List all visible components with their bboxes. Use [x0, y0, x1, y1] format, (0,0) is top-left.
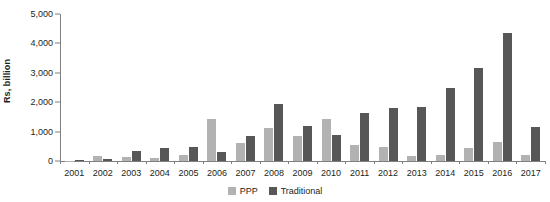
- bar-group-2004: [146, 14, 175, 161]
- x-axis-tick-mark: [431, 161, 432, 164]
- bar-group-2011: [345, 14, 374, 161]
- bar-ppp-2011: [350, 145, 359, 161]
- bar-group-2014: [431, 14, 460, 161]
- legend-item-ppp: PPP: [228, 186, 258, 196]
- y-axis-tick-label: 2,000: [30, 97, 53, 107]
- bar-traditional-2010: [332, 135, 341, 161]
- bar-group-2007: [231, 14, 260, 161]
- x-axis-tick-mark: [89, 161, 90, 164]
- x-axis-label-2017: 2017: [517, 166, 546, 180]
- legend-swatch-ppp: [228, 187, 236, 195]
- bar-traditional-2007: [246, 136, 255, 161]
- bar-group-2017: [517, 14, 546, 161]
- x-axis-labels: 2001200220032004200520062007200820092010…: [60, 166, 545, 180]
- x-axis-label-2012: 2012: [374, 166, 403, 180]
- x-axis-label-2004: 2004: [146, 166, 175, 180]
- y-axis-tick-label: 4,000: [30, 38, 53, 48]
- bar-group-2015: [459, 14, 488, 161]
- x-axis-label-2009: 2009: [288, 166, 317, 180]
- bar-group-2001: [60, 14, 89, 161]
- bar-traditional-2008: [274, 104, 283, 161]
- y-axis-tick-label: 0: [48, 156, 53, 166]
- x-axis-tick-mark: [345, 161, 346, 164]
- bar-traditional-2011: [360, 113, 369, 161]
- x-axis-tick-mark: [545, 161, 546, 164]
- bar-ppp-2006: [207, 119, 216, 161]
- x-axis-tick-mark: [117, 161, 118, 164]
- bar-series-container: [60, 14, 545, 161]
- bar-traditional-2017: [531, 127, 540, 161]
- x-axis-label-2003: 2003: [117, 166, 146, 180]
- bar-traditional-2004: [160, 148, 169, 161]
- x-axis-label-2015: 2015: [459, 166, 488, 180]
- legend-item-traditional: Traditional: [269, 186, 323, 196]
- bar-traditional-2012: [389, 108, 398, 161]
- legend-swatch-traditional: [269, 187, 277, 195]
- bar-traditional-2014: [446, 88, 455, 161]
- x-axis-tick-mark: [374, 161, 375, 164]
- bar-traditional-2005: [189, 147, 198, 161]
- x-axis-label-2008: 2008: [260, 166, 289, 180]
- bar-group-2016: [488, 14, 517, 161]
- bar-ppp-2009: [293, 136, 302, 161]
- x-axis-label-2013: 2013: [402, 166, 431, 180]
- x-axis-tick-mark: [317, 161, 318, 164]
- bar-group-2002: [89, 14, 118, 161]
- bar-chart: Rs, billion 5,0004,0003,0002,0001,0000 2…: [0, 0, 550, 202]
- bar-group-2005: [174, 14, 203, 161]
- bar-group-2010: [317, 14, 346, 161]
- bar-group-2006: [203, 14, 232, 161]
- x-axis-tick-mark: [146, 161, 147, 164]
- bar-group-2009: [288, 14, 317, 161]
- bar-ppp-2008: [264, 128, 273, 161]
- bar-ppp-2012: [379, 147, 388, 161]
- y-axis-title-label: Rs, billion: [2, 58, 12, 102]
- x-axis-label-2016: 2016: [488, 166, 517, 180]
- x-axis-tick-mark: [60, 161, 61, 164]
- x-axis-tick-mark: [516, 161, 517, 164]
- x-axis-tick-mark: [203, 161, 204, 164]
- bar-traditional-2003: [132, 151, 141, 161]
- y-axis-tick-label: 1,000: [30, 127, 53, 137]
- x-axis-tick-mark: [174, 161, 175, 164]
- bar-traditional-2006: [217, 152, 226, 161]
- x-axis-label-2006: 2006: [203, 166, 232, 180]
- bar-group-2012: [374, 14, 403, 161]
- bar-traditional-2016: [503, 33, 512, 161]
- bar-traditional-2015: [474, 68, 483, 161]
- bar-group-2003: [117, 14, 146, 161]
- x-axis-tick-mark: [459, 161, 460, 164]
- bar-ppp-2015: [464, 148, 473, 161]
- chart-legend: PPPTraditional: [0, 184, 550, 198]
- x-axis-label-2002: 2002: [89, 166, 118, 180]
- x-axis-label-2007: 2007: [231, 166, 260, 180]
- x-axis-tick-mark: [402, 161, 403, 164]
- x-axis-tick-mark: [488, 161, 489, 164]
- bar-group-2008: [260, 14, 289, 161]
- x-axis-tick-mark: [231, 161, 232, 164]
- x-axis-label-2011: 2011: [345, 166, 374, 180]
- x-axis-label-2001: 2001: [60, 166, 89, 180]
- x-axis-label-2010: 2010: [317, 166, 346, 180]
- legend-label-ppp: PPP: [240, 186, 258, 196]
- bar-group-2013: [402, 14, 431, 161]
- y-axis-title: Rs, billion: [0, 0, 14, 161]
- y-axis-tick-label: 3,000: [30, 68, 53, 78]
- bar-ppp-2007: [236, 143, 245, 161]
- x-axis-tick-mark: [260, 161, 261, 164]
- y-axis-tick-label: 5,000: [30, 9, 53, 19]
- y-axis-ticks: 5,0004,0003,0002,0001,0000: [14, 0, 60, 175]
- x-axis-label-2005: 2005: [174, 166, 203, 180]
- bar-ppp-2016: [493, 142, 502, 161]
- x-axis-ticks: [60, 161, 545, 165]
- x-axis-label-2014: 2014: [431, 166, 460, 180]
- legend-label-traditional: Traditional: [281, 186, 323, 196]
- bar-traditional-2013: [417, 107, 426, 161]
- x-axis-tick-mark: [288, 161, 289, 164]
- bar-ppp-2010: [322, 119, 331, 161]
- bar-traditional-2009: [303, 126, 312, 161]
